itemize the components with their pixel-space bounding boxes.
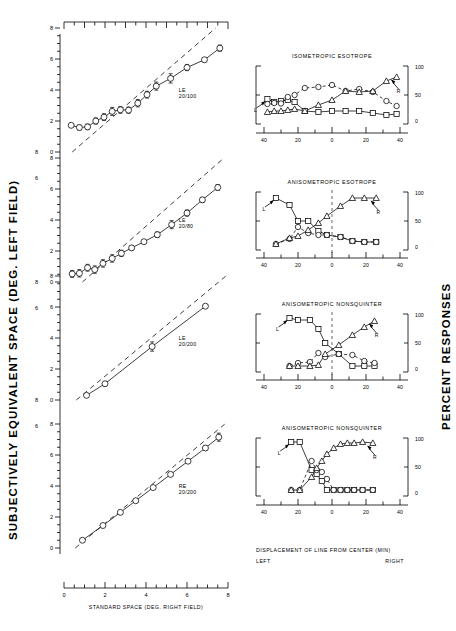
- svg-text:20: 20: [295, 509, 301, 515]
- svg-text:SUBJECTIVELY EQUIVALENT SPACE: SUBJECTIVELY EQUIVALENT SPACE (DEG. LEFT…: [7, 180, 19, 540]
- svg-text:40: 40: [397, 509, 403, 515]
- svg-text:20: 20: [363, 262, 369, 268]
- svg-text:0: 0: [415, 244, 418, 250]
- svg-text:4: 4: [144, 592, 147, 598]
- svg-text:20: 20: [295, 384, 301, 390]
- svg-text:20/80: 20/80: [179, 223, 193, 229]
- svg-text:2: 2: [50, 514, 53, 520]
- svg-text:2: 2: [50, 366, 53, 372]
- svg-text:0: 0: [331, 384, 334, 390]
- svg-text:50: 50: [415, 340, 421, 346]
- svg-text:0: 0: [50, 279, 53, 285]
- svg-text:0: 0: [50, 397, 53, 403]
- svg-text:20: 20: [295, 137, 301, 143]
- svg-text:0: 0: [331, 509, 334, 515]
- svg-text:8: 8: [50, 273, 53, 279]
- figure-canvas: 0246802468024680246886868602468STANDARD …: [0, 0, 456, 631]
- svg-text:ANISOMETROPIC ESOTROPE: ANISOMETROPIC ESOTROPE: [288, 179, 377, 185]
- svg-text:4: 4: [50, 335, 53, 341]
- svg-text:40: 40: [261, 509, 267, 515]
- svg-text:50: 50: [415, 92, 421, 98]
- svg-text:0: 0: [50, 545, 53, 551]
- svg-text:ISOMETROPIC ESOTROPE: ISOMETROPIC ESOTROPE: [292, 53, 372, 59]
- svg-text:2: 2: [50, 248, 53, 254]
- svg-text:RIGHT: RIGHT: [385, 558, 404, 564]
- svg-text:20/200: 20/200: [179, 489, 197, 495]
- svg-text:40: 40: [261, 137, 267, 143]
- svg-text:20/100: 20/100: [179, 93, 197, 99]
- svg-text:40: 40: [261, 384, 267, 390]
- svg-text:8: 8: [50, 25, 53, 31]
- svg-text:50: 50: [415, 218, 421, 224]
- svg-text:100: 100: [415, 190, 424, 196]
- svg-text:6: 6: [185, 592, 188, 598]
- svg-text:R: R: [373, 454, 377, 460]
- svg-text:0: 0: [331, 262, 334, 268]
- svg-text:4: 4: [50, 483, 53, 489]
- svg-text:4: 4: [50, 87, 53, 93]
- svg-text:R: R: [397, 88, 401, 94]
- svg-text:20: 20: [295, 262, 301, 268]
- svg-text:40: 40: [397, 384, 403, 390]
- svg-text:8: 8: [35, 397, 38, 403]
- svg-text:8: 8: [35, 149, 38, 155]
- svg-text:ANISOMETROPIC NONSQUINTER: ANISOMETROPIC NONSQUINTER: [282, 425, 382, 431]
- svg-text:STANDARD SPACE (DEG. RIGHT FIE: STANDARD SPACE (DEG. RIGHT FIELD): [89, 604, 204, 610]
- svg-text:20: 20: [363, 509, 369, 515]
- svg-text:2: 2: [103, 592, 106, 598]
- svg-text:20/200: 20/200: [179, 341, 197, 347]
- svg-text:0: 0: [415, 490, 418, 496]
- svg-text:6: 6: [50, 186, 53, 192]
- svg-text:50: 50: [415, 464, 421, 470]
- svg-text:6: 6: [35, 423, 38, 429]
- svg-text:0: 0: [415, 366, 418, 372]
- svg-text:20: 20: [363, 137, 369, 143]
- svg-text:0: 0: [331, 137, 334, 143]
- svg-text:8: 8: [50, 155, 53, 161]
- svg-text:6: 6: [35, 305, 38, 311]
- svg-text:40: 40: [397, 262, 403, 268]
- svg-text:R: R: [375, 332, 379, 338]
- svg-text:0: 0: [62, 592, 65, 598]
- svg-text:4: 4: [50, 217, 53, 223]
- svg-text:6: 6: [50, 304, 53, 310]
- svg-text:100: 100: [415, 64, 424, 70]
- svg-text:20: 20: [363, 384, 369, 390]
- svg-text:PERCENT RESPONSES: PERCENT RESPONSES: [440, 283, 452, 430]
- svg-text:8: 8: [226, 592, 229, 598]
- svg-text:40: 40: [397, 137, 403, 143]
- svg-text:40: 40: [261, 262, 267, 268]
- svg-text:8: 8: [50, 421, 53, 427]
- svg-text:ANISOMETROPIC NONSQUINTER: ANISOMETROPIC NONSQUINTER: [282, 301, 382, 307]
- svg-text:6: 6: [50, 452, 53, 458]
- svg-text:2: 2: [50, 118, 53, 124]
- svg-text:0: 0: [415, 118, 418, 124]
- svg-text:6: 6: [35, 175, 38, 181]
- svg-text:LEFT: LEFT: [256, 558, 271, 564]
- svg-text:DISPLACEMENT OF LINE FROM CENT: DISPLACEMENT OF LINE FROM CENTER (MIN): [256, 547, 391, 553]
- svg-text:100: 100: [415, 436, 424, 442]
- svg-text:R: R: [376, 209, 380, 215]
- svg-text:100: 100: [415, 312, 424, 318]
- svg-text:6: 6: [50, 56, 53, 62]
- svg-text:8: 8: [35, 279, 38, 285]
